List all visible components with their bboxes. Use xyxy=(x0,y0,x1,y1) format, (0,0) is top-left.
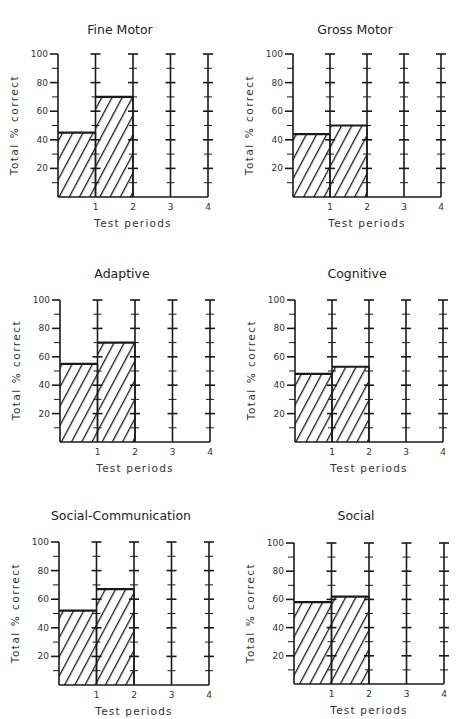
chart-title: Social-Communication xyxy=(21,508,221,523)
x-tick-label: 4 xyxy=(207,447,213,457)
x-tick-label: 1 xyxy=(94,690,100,700)
y-tick-label: 100 xyxy=(266,49,283,59)
chart-panel-social-communication: 123420406080100 xyxy=(32,537,214,700)
y-axis-label: Total % correct xyxy=(244,553,256,673)
y-tick-label: 100 xyxy=(32,537,49,547)
x-tick-label: 2 xyxy=(366,689,372,699)
y-tick-label: 20 xyxy=(37,163,49,173)
x-axis-label: Test periods xyxy=(79,462,192,474)
x-tick-label: 3 xyxy=(170,447,176,457)
y-tick-label: 60 xyxy=(272,106,284,116)
y-tick-label: 100 xyxy=(33,295,50,305)
x-axis-label: Test periods xyxy=(312,217,423,229)
y-axis-label: Total % correct xyxy=(8,65,20,185)
y-tick-label: 40 xyxy=(37,135,49,145)
y-tick-label: 80 xyxy=(273,566,285,576)
x-tick-label: 2 xyxy=(364,202,370,212)
y-tick-label: 20 xyxy=(39,409,51,419)
charts-canvas: 1234204060801001234204060801001234204060… xyxy=(0,0,458,719)
y-tick-label: 80 xyxy=(38,566,50,576)
bar-period-1 xyxy=(58,133,96,197)
y-tick-label: 80 xyxy=(274,323,286,333)
x-axis-label: Test periods xyxy=(313,704,426,716)
x-tick-label: 2 xyxy=(366,447,372,457)
chart-title: Social xyxy=(256,508,456,523)
y-tick-label: 40 xyxy=(274,380,286,390)
bar-period-2 xyxy=(332,597,370,684)
y-tick-label: 100 xyxy=(267,538,284,548)
bar-period-1 xyxy=(294,602,332,684)
x-tick-label: 3 xyxy=(168,202,174,212)
chart-title: Adaptive xyxy=(22,266,222,281)
chart-panel-cognitive: 123420406080100 xyxy=(268,295,448,457)
x-tick-label: 2 xyxy=(131,690,137,700)
x-tick-label: 4 xyxy=(441,689,447,699)
chart-panel-social: 123420406080100 xyxy=(267,538,449,699)
x-tick-label: 3 xyxy=(169,690,175,700)
x-tick-label: 4 xyxy=(438,202,444,212)
y-tick-label: 40 xyxy=(38,623,50,633)
y-tick-label: 60 xyxy=(39,352,51,362)
x-tick-label: 1 xyxy=(329,447,335,457)
bar-period-1 xyxy=(293,134,330,197)
bar-period-2 xyxy=(97,589,135,685)
y-tick-label: 40 xyxy=(272,135,284,145)
y-tick-label: 80 xyxy=(272,78,284,88)
chart-panel-gross-motor: 123420406080100 xyxy=(266,49,446,212)
y-tick-label: 100 xyxy=(268,295,285,305)
bar-period-1 xyxy=(295,374,332,442)
bar-period-1 xyxy=(60,364,98,442)
chart-title: Gross Motor xyxy=(255,22,455,37)
y-tick-label: 20 xyxy=(273,651,285,661)
x-tick-label: 1 xyxy=(327,202,333,212)
y-tick-label: 80 xyxy=(37,78,49,88)
y-tick-label: 20 xyxy=(272,163,284,173)
x-tick-label: 3 xyxy=(403,447,409,457)
x-tick-label: 2 xyxy=(132,447,138,457)
y-axis-label: Total % correct xyxy=(243,65,255,185)
x-tick-label: 2 xyxy=(130,202,136,212)
bar-period-2 xyxy=(332,367,369,442)
y-tick-label: 20 xyxy=(38,651,50,661)
x-tick-label: 3 xyxy=(404,689,410,699)
y-tick-label: 80 xyxy=(39,323,51,333)
bar-period-1 xyxy=(59,611,97,685)
x-tick-label: 1 xyxy=(93,202,99,212)
bar-period-2 xyxy=(96,97,134,197)
y-tick-label: 100 xyxy=(31,49,48,59)
x-tick-label: 1 xyxy=(95,447,101,457)
x-tick-label: 3 xyxy=(401,202,407,212)
chart-panel-adaptive: 123420406080100 xyxy=(33,295,215,457)
x-tick-label: 4 xyxy=(206,690,212,700)
bar-period-2 xyxy=(98,343,136,442)
x-axis-label: Test periods xyxy=(314,462,425,474)
x-axis-label: Test periods xyxy=(77,217,190,229)
y-axis-label: Total % correct xyxy=(245,310,257,430)
y-tick-label: 60 xyxy=(274,352,286,362)
x-axis-label: Test periods xyxy=(78,705,191,717)
y-axis-label: Total % correct xyxy=(9,553,21,673)
y-tick-label: 60 xyxy=(37,106,49,116)
chart-panel-fine-motor: 123420406080100 xyxy=(31,49,213,212)
y-tick-label: 60 xyxy=(273,594,285,604)
x-tick-label: 4 xyxy=(205,202,211,212)
bar-period-2 xyxy=(330,126,367,198)
y-tick-label: 40 xyxy=(39,380,51,390)
chart-title: Cognitive xyxy=(257,266,457,281)
x-tick-label: 1 xyxy=(329,689,335,699)
chart-title: Fine Motor xyxy=(20,22,220,37)
y-axis-label: Total % correct xyxy=(10,310,22,430)
x-tick-label: 4 xyxy=(440,447,446,457)
y-tick-label: 60 xyxy=(38,594,50,604)
y-tick-label: 20 xyxy=(274,409,286,419)
y-tick-label: 40 xyxy=(273,623,285,633)
